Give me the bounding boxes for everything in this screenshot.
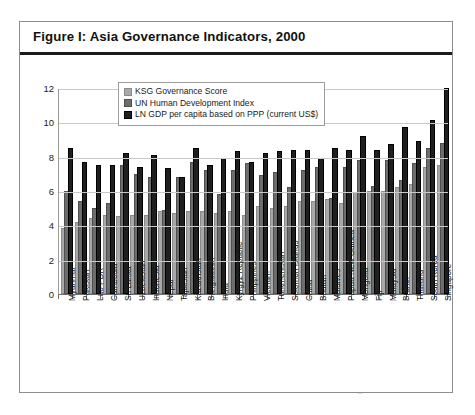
figure-title-bar: Figure I: Asia Governance Indicators, 20… xyxy=(20,22,452,55)
x-axis-label: Lao PDR xyxy=(96,268,104,301)
legend-item: UN Human Development Index xyxy=(124,98,318,110)
x-axis-label: Fiji xyxy=(375,291,383,301)
y-axis-tick-label: 0 xyxy=(32,290,54,300)
legend-item: LN GDP per capita based on PPP (current … xyxy=(124,109,318,121)
x-axis-label: China xyxy=(305,280,313,301)
legend-label: LN GDP per capita based on PPP (current … xyxy=(135,110,318,119)
grid-line xyxy=(59,158,448,159)
grid-line xyxy=(59,226,448,227)
legend-label: KSG Governance Score xyxy=(135,87,227,96)
grid-line xyxy=(59,192,448,193)
chart-canvas: 024681012 MyanmarPakistanLao PDRCambodia… xyxy=(20,58,454,392)
x-axis-label: Philippines xyxy=(249,261,257,301)
x-axis-label: Cambodia xyxy=(110,264,118,301)
x-axis-label: Brunei xyxy=(402,277,410,301)
x-axis-label: Myanmar xyxy=(68,267,76,301)
y-axis-tick-label: 4 xyxy=(32,221,54,231)
x-axis-label: Thailand xyxy=(416,270,424,301)
scan-artifact: I xyxy=(357,392,363,394)
y-axis-tick-label: 12 xyxy=(32,84,54,94)
x-axis-label: Papua New Guinea xyxy=(347,230,355,301)
legend-label: UN Human Development Index xyxy=(135,99,254,108)
bar xyxy=(305,150,311,294)
x-axis-label: Maldives xyxy=(333,269,341,301)
x-axis-label: Uzbekistan xyxy=(138,260,146,301)
x-axis-label: Sri Lanka xyxy=(124,266,132,301)
y-axis-tick-label: 8 xyxy=(32,153,54,163)
x-axis-label: Tajikistan xyxy=(180,267,188,301)
x-axis-label: Vietnam xyxy=(263,271,271,301)
x-axis-label: Nepal xyxy=(166,280,174,301)
y-axis-tick-labels: 024681012 xyxy=(30,89,54,295)
x-axis-label: Malaysia xyxy=(389,269,397,301)
x-axis-label: Kazakhstan xyxy=(194,258,202,301)
x-axis-label: Indonesia xyxy=(152,265,160,301)
x-axis-label: South Korea xyxy=(430,255,438,301)
x-axis-label: Pakistan xyxy=(82,270,90,301)
bar xyxy=(165,168,171,294)
x-axis-label: India xyxy=(221,283,229,301)
x-axis-label: Mongolia xyxy=(361,268,369,301)
x-axis-label: Solomon Islands xyxy=(291,240,299,301)
y-axis-tick-label: 2 xyxy=(32,256,54,266)
x-axis-label: Bangladesh xyxy=(207,258,215,301)
x-axis-category-labels: MyanmarPakistanLao PDRCambodiaSri LankaU… xyxy=(58,299,448,391)
chart-legend: KSG Governance Score UN Human Developmen… xyxy=(118,82,325,126)
x-axis-label: Bhutan xyxy=(319,275,327,301)
y-axis-tick-label: 6 xyxy=(32,187,54,197)
page-title: Figure I: Asia Governance Indicators, 20… xyxy=(33,29,306,44)
x-axis-label: Turkmenistan xyxy=(277,252,285,301)
legend-swatch-ksg-governance-score xyxy=(124,88,132,96)
bar xyxy=(402,127,408,294)
y-axis-tick-label: 10 xyxy=(32,118,54,128)
bar xyxy=(374,150,380,294)
legend-swatch-un-human-development-index xyxy=(124,99,132,107)
legend-item: KSG Governance Score xyxy=(124,86,318,98)
figure-container: Figure I: Asia Governance Indicators, 20… xyxy=(19,21,453,393)
legend-swatch-ln-gdp-per-capita xyxy=(124,111,132,119)
x-axis-label: Kyrgyz Republic xyxy=(235,242,243,301)
x-axis-label: Singapore xyxy=(444,264,452,301)
